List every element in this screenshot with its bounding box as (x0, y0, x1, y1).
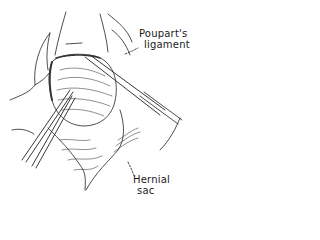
hernial-label-line1: Hernial (133, 174, 170, 185)
hernial-label-line2: sac (133, 185, 170, 196)
poupart-label-line1: Poupart's (139, 28, 190, 39)
hernial-sac-label: Hernial sac (133, 174, 170, 196)
poupart-ligament-label: Poupart's ligament (139, 28, 190, 50)
poupart-label-line2: ligament (139, 39, 190, 50)
